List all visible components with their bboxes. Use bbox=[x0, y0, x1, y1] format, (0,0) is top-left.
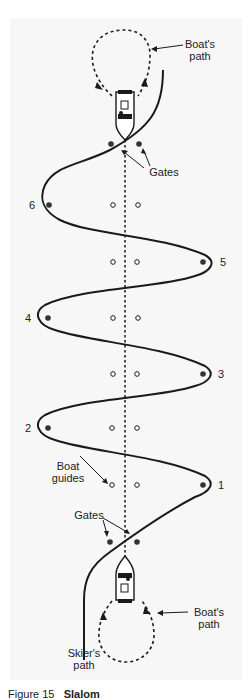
turn-buoy-1 bbox=[200, 482, 206, 488]
caption-title: Slalom bbox=[64, 688, 100, 700]
buoy-number-4: 4 bbox=[25, 312, 31, 324]
turn-buoy-3 bbox=[200, 371, 206, 377]
label-line: Boat's bbox=[188, 606, 230, 618]
label-skiers-path: Skier's path bbox=[62, 647, 106, 671]
caption-prefix: Figure 15 bbox=[8, 688, 54, 700]
label-boats-path-top: Boat's path bbox=[180, 38, 220, 62]
label-gates-top: Gates bbox=[146, 166, 182, 178]
buoy-number-6: 6 bbox=[29, 199, 35, 211]
boat-path-loop-top bbox=[92, 30, 150, 96]
buoy-number-1: 1 bbox=[218, 479, 224, 491]
callout-line bbox=[103, 518, 127, 532]
label-gates-bottom: Gates bbox=[72, 509, 106, 521]
callout-line bbox=[154, 45, 183, 49]
arrowhead-icon bbox=[157, 610, 163, 616]
turn-buoy-2 bbox=[45, 425, 51, 431]
callout-line bbox=[124, 152, 144, 168]
arrow-icon bbox=[141, 78, 148, 87]
arrowhead-icon bbox=[141, 148, 146, 154]
buoy-number-2: 2 bbox=[25, 422, 31, 434]
turn-buoy-4 bbox=[45, 315, 51, 321]
gate-buoy-bottom-left bbox=[107, 539, 113, 545]
turn-buoy-5 bbox=[200, 259, 206, 265]
boat-icon-top bbox=[116, 90, 134, 140]
label-line: path bbox=[180, 50, 220, 62]
gate-buoy-bottom-right bbox=[134, 539, 140, 545]
label-boats-path-bottom: Boat's path bbox=[188, 606, 230, 630]
buoy-number-3: 3 bbox=[218, 368, 224, 380]
label-line: path bbox=[188, 618, 230, 630]
arrow-icon bbox=[95, 82, 103, 90]
label-line: Boat bbox=[50, 460, 86, 472]
label-line: guides bbox=[50, 472, 86, 484]
label-line: Boat's bbox=[180, 38, 220, 50]
turn-buoy-6 bbox=[46, 202, 52, 208]
label-line: Skier's bbox=[62, 647, 106, 659]
buoy-number-5: 5 bbox=[220, 256, 226, 268]
gate-buoy-top-right bbox=[136, 141, 142, 147]
callout-line bbox=[160, 612, 188, 613]
label-boat-guides: Boat guides bbox=[50, 460, 86, 484]
boat-icon-bottom bbox=[116, 556, 134, 603]
arrow-icon bbox=[100, 612, 107, 620]
label-line: path bbox=[62, 659, 106, 671]
figure-caption: Figure 15 Slalom bbox=[8, 688, 100, 700]
arrowhead-icon bbox=[151, 46, 157, 52]
gate-buoy-top-left bbox=[108, 141, 114, 147]
arrowhead-icon bbox=[104, 531, 109, 537]
